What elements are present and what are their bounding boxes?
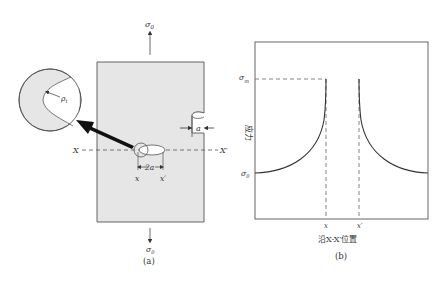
edge-notch (192, 112, 204, 118)
stress-label-bottom: σ0 (146, 245, 155, 255)
y-axis-label: 应力 (244, 125, 254, 141)
x-tick-x: x (324, 222, 328, 230)
stress-concentration-figure: σ0 a X X′ 2a x x′ (0, 0, 446, 281)
caption-a: (a) (143, 256, 155, 266)
axis-label-x: X (72, 146, 79, 155)
chart-frame (255, 42, 428, 219)
panel-a: σ0 a X X′ 2a x x′ (19, 20, 228, 266)
internal-crack (139, 145, 165, 155)
plate (97, 62, 204, 222)
caption-b: (b) (335, 251, 347, 261)
panel-b: σm σ0 应力 x x′ 沿X-X′位置 (b) (239, 42, 428, 261)
x-tick-x-prime: x′ (357, 222, 363, 230)
x-axis-label: 沿X-X′位置 (318, 234, 357, 244)
axis-label-x-prime: X′ (219, 146, 228, 155)
y-tick-sigma-m: σm (239, 73, 249, 84)
stress-label-top: σ0 (145, 20, 154, 30)
magnified-crack-tip: ρt (19, 69, 81, 131)
crack-length-label: 2a (144, 163, 154, 172)
notch-depth-label: a (196, 124, 201, 133)
y-tick-sigma-0: σ0 (241, 169, 250, 179)
point-x-prime-label: x′ (160, 174, 166, 183)
